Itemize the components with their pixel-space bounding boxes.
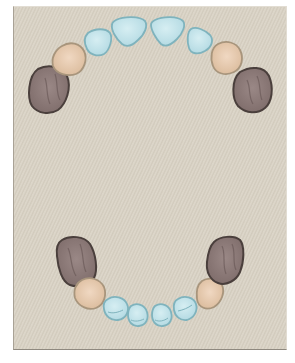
upper-right-canine — [52, 43, 85, 75]
upper-left-lateral-incisor — [188, 28, 212, 53]
lower-right-canine — [74, 278, 105, 309]
upper-right-lateral-incisor — [85, 29, 111, 55]
upper-right-central-incisor — [112, 17, 146, 46]
lower-left-molar — [207, 237, 244, 284]
upper-arch — [29, 17, 272, 113]
upper-left-central-incisor — [151, 17, 184, 46]
lower-arch — [57, 237, 244, 326]
upper-left-canine — [211, 42, 242, 74]
upper-left-molar — [233, 68, 271, 112]
lower-left-lateral-incisor — [174, 297, 197, 320]
lower-right-lateral-incisor — [104, 297, 128, 320]
lower-left-central-incisor — [152, 304, 172, 326]
lower-right-central-incisor — [128, 304, 148, 326]
dental-arch-diagram — [0, 0, 295, 363]
